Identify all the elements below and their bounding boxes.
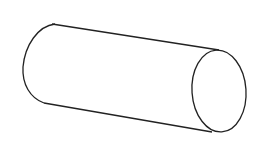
cylinder-end-cap	[189, 48, 249, 134]
cylinder-top-edge	[52, 24, 219, 50]
diagram-canvas	[0, 0, 262, 156]
cylinder-drawing	[0, 0, 262, 156]
cylinder-left-edge	[23, 24, 55, 103]
cylinder-bottom-edge	[44, 103, 212, 132]
